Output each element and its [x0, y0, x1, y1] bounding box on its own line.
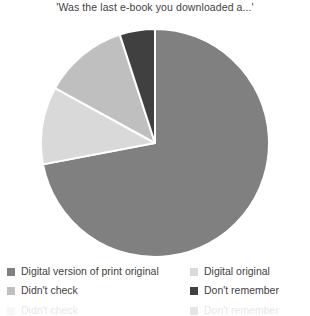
- legend-swatch-icon: [190, 268, 198, 276]
- legend-swatch-icon: [7, 307, 15, 315]
- legend-row-3-cropped: Didn't check Don't remember: [0, 305, 310, 316]
- legend-item-didnt-check[interactable]: Didn't check: [7, 281, 78, 300]
- legend-label: Digital original: [204, 266, 270, 277]
- legend-swatch-icon: [7, 268, 15, 276]
- pie-chart-figure: 'Was the last e-book you downloaded a...…: [0, 0, 310, 316]
- legend-label: Digital version of print original: [21, 266, 159, 277]
- legend-label: Didn't check: [21, 305, 78, 316]
- legend-item-cropped-left: Didn't check: [7, 305, 78, 316]
- chart-title: 'Was the last e-book you downloaded a...…: [0, 1, 310, 13]
- legend-item-dont-remember[interactable]: Don't remember: [190, 281, 279, 300]
- legend-item-cropped-right: Don't remember: [190, 305, 279, 316]
- legend-row-1: Digital version of print original Digita…: [0, 262, 310, 281]
- pie-slice-group: Digital version of print originalDigital…: [41, 29, 269, 257]
- legend-label: Don't remember: [204, 305, 279, 316]
- chart-legend: Digital version of print original Digita…: [0, 262, 310, 302]
- pie-plot-area: Digital version of print originalDigital…: [40, 28, 270, 258]
- legend-item-digital-version-of-print-original[interactable]: Digital version of print original: [7, 262, 159, 281]
- legend-item-digital-original[interactable]: Digital original: [190, 262, 270, 281]
- legend-label: Don't remember: [204, 285, 279, 296]
- legend-row-2: Didn't check Don't remember: [0, 281, 310, 300]
- legend-swatch-icon: [190, 287, 198, 295]
- pie-svg: Digital version of print originalDigital…: [40, 28, 270, 258]
- legend-swatch-icon: [7, 287, 15, 295]
- legend-swatch-icon: [190, 307, 198, 315]
- legend-overflow-crop: Didn't check Don't remember: [0, 305, 310, 316]
- legend-label: Didn't check: [21, 285, 78, 296]
